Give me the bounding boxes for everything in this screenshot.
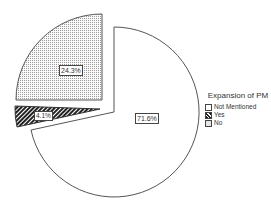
legend-item-no: No	[205, 119, 271, 127]
legend-label: Not Mentioned	[214, 103, 256, 111]
slice-no	[16, 14, 102, 100]
legend-label: No	[214, 119, 222, 127]
legend: Expansion of PM Not Mentioned Yes No	[205, 91, 271, 127]
legend-title: Expansion of PM	[205, 91, 271, 100]
swatch-hatch-icon	[205, 112, 212, 119]
slice-label-not-mentioned: 71.6%	[135, 113, 159, 124]
swatch-dots-icon	[205, 120, 212, 127]
legend-label: Yes	[214, 111, 225, 119]
swatch-white-icon	[205, 104, 212, 111]
slice-label-yes: 4.1%	[34, 111, 53, 121]
slice-label-no: 24.3%	[59, 65, 83, 76]
legend-item-yes: Yes	[205, 111, 271, 119]
legend-item-not-mentioned: Not Mentioned	[205, 103, 271, 111]
